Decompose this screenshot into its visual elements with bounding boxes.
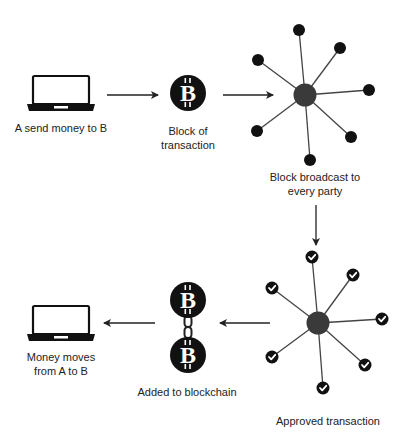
bitcoin-coin-icon	[170, 75, 206, 111]
check-icon	[306, 251, 319, 264]
network-star-check-icon	[266, 251, 389, 395]
label-receive: Money moves from A to B	[27, 350, 95, 378]
label-send: A send money to B	[15, 121, 107, 135]
check-icon	[266, 282, 279, 295]
check-icon	[347, 269, 360, 282]
check-icon	[359, 359, 372, 372]
label-chain: Added to blockchain	[137, 385, 236, 399]
receiver-laptop-icon	[27, 306, 95, 341]
label-block: Block of transaction	[161, 124, 215, 152]
check-icon	[376, 313, 389, 326]
check-icon	[317, 382, 330, 395]
chained-bitcoin-icon	[170, 282, 206, 373]
label-approved: Approved transaction	[276, 414, 380, 428]
label-broadcast: Block broadcast to every party	[270, 170, 361, 198]
sender-laptop-icon	[27, 76, 95, 111]
check-icon	[266, 351, 279, 364]
